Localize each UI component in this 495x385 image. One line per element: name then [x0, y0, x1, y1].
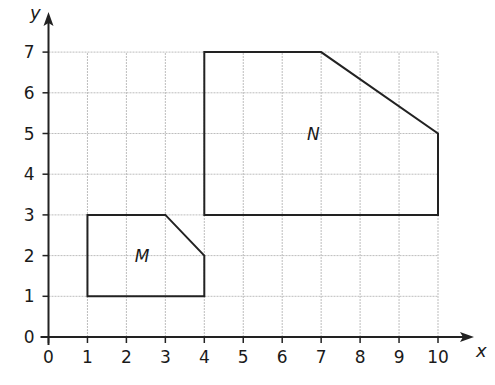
x-tick-label: 6 — [277, 347, 288, 367]
y-tick-label: 4 — [24, 164, 35, 184]
y-tick-label: 0 — [24, 327, 35, 347]
x-tick-label: 8 — [355, 347, 366, 367]
y-tick-label: 6 — [24, 83, 35, 103]
shape-label-n: N — [307, 124, 320, 144]
y-axis-label: y — [29, 2, 41, 23]
grid-lines — [49, 52, 439, 337]
x-tick-label: 10 — [427, 347, 449, 367]
y-tick-label: 7 — [24, 42, 35, 62]
y-tick-label: 2 — [24, 246, 35, 266]
y-tick-label: 1 — [24, 286, 35, 306]
x-tick-label: 5 — [238, 347, 249, 367]
coordinate-grid: MN 01234567891001234567 x y — [0, 0, 495, 385]
x-tick-label: 2 — [121, 347, 132, 367]
y-tick-label: 5 — [24, 124, 35, 144]
x-tick-label: 9 — [394, 347, 405, 367]
x-tick-label: 7 — [316, 347, 327, 367]
x-tick-label: 4 — [199, 347, 210, 367]
shape-label-m: M — [135, 246, 150, 266]
axes — [41, 12, 475, 345]
x-axis-label: x — [475, 340, 487, 361]
y-tick-label: 3 — [24, 205, 35, 225]
x-tick-label: 1 — [82, 347, 93, 367]
x-tick-label: 0 — [43, 347, 54, 367]
x-tick-label: 3 — [160, 347, 171, 367]
